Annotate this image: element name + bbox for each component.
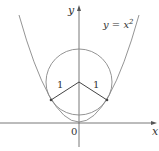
y-axis-arrow-icon	[77, 5, 81, 11]
y-axis	[77, 5, 81, 147]
x-axis-label: x	[152, 125, 159, 138]
y-axis-label: y	[67, 4, 75, 17]
curve-label: y = x2	[102, 18, 134, 30]
tangent-point-right	[106, 99, 109, 102]
diagram-canvas: y x 0 1 1 y = x2	[0, 0, 159, 151]
tangent-point-left	[50, 99, 53, 102]
radius-label-right: 1	[93, 79, 99, 90]
origin-label: 0	[71, 126, 77, 137]
radius-label-left: 1	[57, 79, 63, 90]
